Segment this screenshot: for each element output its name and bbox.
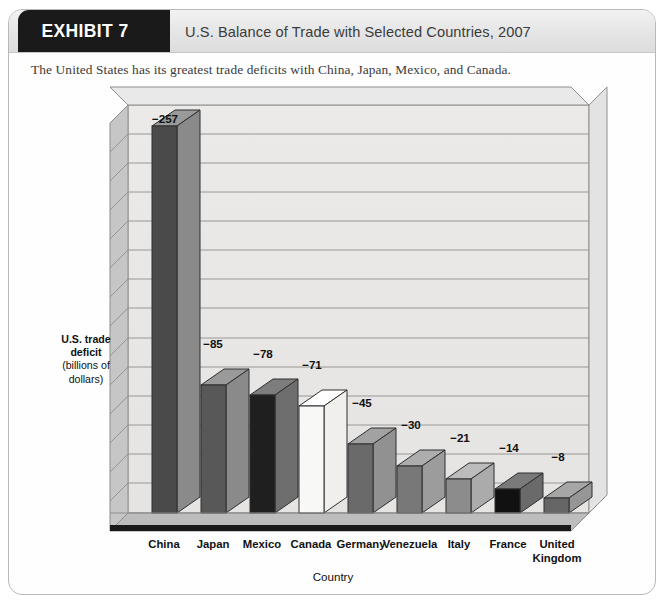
value-label-united-kingdom: −8 — [527, 450, 589, 463]
bar-china — [152, 110, 200, 513]
bar-japan — [201, 369, 249, 513]
chart-canvas — [0, 0, 666, 612]
value-label-china: −257 — [131, 112, 199, 125]
x-axis-label: Country — [0, 570, 666, 583]
y-axis-label-line4: dollars) — [40, 373, 132, 386]
value-label-canada: −71 — [281, 358, 343, 371]
value-label-germany: −45 — [331, 396, 393, 409]
y-axis-label-line1: U.S. trade — [40, 333, 132, 346]
uk-line2: Kingdom — [533, 552, 582, 564]
value-label-venezuela: −30 — [380, 418, 442, 431]
bar-germany — [348, 428, 396, 513]
y-axis-label-line3: (billions of — [40, 359, 132, 372]
exhibit-page: EXHIBIT 7 U.S. Balance of Trade with Sel… — [0, 0, 666, 612]
bar-mexico — [250, 379, 298, 513]
category-label-united-kingdom: UnitedKingdom — [526, 538, 588, 566]
trade-deficit-bar-chart: U.S. trade deficit (billions of dollars)… — [0, 0, 666, 612]
uk-line1: United — [539, 538, 574, 550]
y-axis-label: U.S. trade deficit (billions of dollars) — [40, 333, 132, 386]
y-axis-label-line2: deficit — [40, 346, 132, 359]
